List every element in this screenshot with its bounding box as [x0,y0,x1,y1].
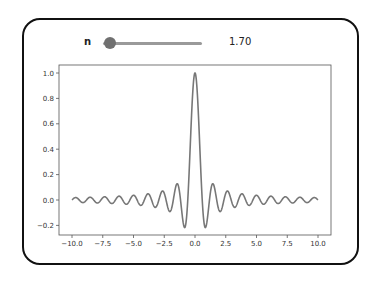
x-tick-label: 0.0 [189,240,200,248]
y-tick-label: 0.6 [43,120,55,128]
x-tick-label: 7.5 [282,240,293,248]
plot-axes-frame [59,65,331,235]
x-tick-label: 2.5 [220,240,231,248]
x-tick-label: −2.5 [156,240,173,248]
x-tick-label: 5.0 [251,240,262,248]
y-tick-label: 0.4 [43,146,55,154]
y-tick-label: 1.0 [43,70,54,78]
sinc-plot: −0.20.00.20.40.60.81.0 −10.0−7.5−5.0−2.5… [0,0,382,283]
x-tick-label: 10.0 [310,240,326,248]
y-tick-label: 0.0 [43,197,54,205]
x-tick-label: −10.0 [61,240,82,248]
x-tick-label: −7.5 [94,240,111,248]
y-tick-label: −0.2 [37,222,54,230]
x-axis: −10.0−7.5−5.0−2.50.02.55.07.510.0 [61,235,326,248]
x-tick-label: −5.0 [125,240,142,248]
y-tick-label: 0.8 [43,95,54,103]
y-tick-label: 0.2 [43,171,54,179]
y-axis: −0.20.00.20.40.60.81.0 [37,70,59,230]
sinc-curve [72,73,318,228]
